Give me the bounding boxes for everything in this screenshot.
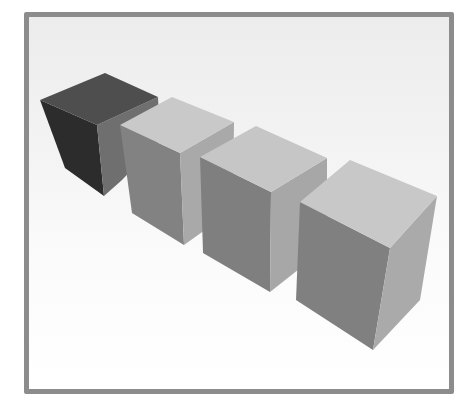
box-4 bbox=[296, 160, 437, 350]
boxes-scene bbox=[0, 0, 465, 412]
